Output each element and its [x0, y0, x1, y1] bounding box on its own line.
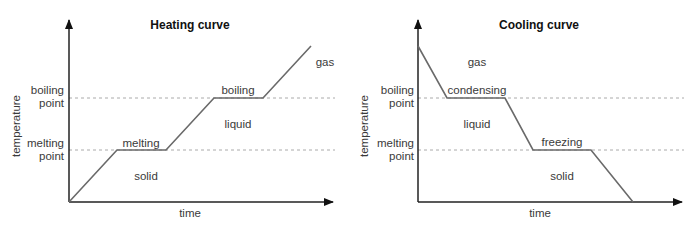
cooling-curve-line [418, 46, 633, 202]
boiling-label: boiling [221, 84, 254, 96]
solid-label: solid [134, 170, 158, 182]
condensing-label: condensing [448, 84, 507, 96]
liquid-label: liquid [464, 118, 491, 130]
gas-label: gas [316, 56, 335, 68]
heating-curve-line [69, 46, 311, 202]
melting-point-label-2: point [39, 150, 65, 162]
solid-label: solid [550, 170, 574, 182]
melting-point-label-1: melting [27, 137, 64, 149]
boiling-point-label-1: boiling [381, 84, 414, 96]
melting-point-label-2: point [389, 150, 415, 162]
heating-title: Heating curve [150, 18, 230, 32]
x-axis-label: time [179, 207, 201, 219]
boiling-point-label-2: point [389, 97, 415, 109]
heating-curve-chart: Heating curve boiling point melting poin… [10, 18, 335, 219]
melting-label: melting [122, 137, 159, 149]
phase-change-diagrams: Heating curve boiling point melting poin… [0, 0, 696, 228]
y-axis-label: temperature [10, 95, 22, 157]
liquid-label: liquid [225, 118, 252, 130]
gas-label: gas [468, 56, 487, 68]
x-axis-label: time [529, 207, 551, 219]
melting-point-label-1: melting [377, 137, 414, 149]
freezing-label: freezing [542, 136, 583, 148]
boiling-point-label-2: point [39, 97, 65, 109]
boiling-point-label-1: boiling [31, 84, 64, 96]
cooling-curve-chart: Cooling curve boiling point melting poin… [358, 18, 684, 219]
cooling-title: Cooling curve [499, 18, 579, 32]
y-axis-label: temperature [358, 95, 370, 157]
